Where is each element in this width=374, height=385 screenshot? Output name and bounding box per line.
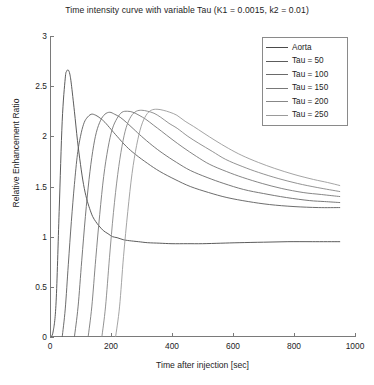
x-tick-mark <box>111 333 112 337</box>
chart-legend: AortaTau = 50Tau = 100Tau = 150Tau = 200… <box>262 37 348 126</box>
y-tick-mark <box>50 36 54 37</box>
y-axis-ticks: 00.511.522.53 <box>0 36 47 337</box>
y-tick-label: 3 <box>7 31 47 41</box>
x-tick-mark <box>172 333 173 337</box>
legend-line-icon <box>266 61 288 62</box>
legend-label: Tau = 250 <box>292 111 328 119</box>
y-tick-mark <box>50 237 54 238</box>
legend-line-icon <box>266 74 288 75</box>
y-axis-title: Relative Enhancement Ratio <box>11 53 21 253</box>
legend-label: Tau = 200 <box>292 98 328 106</box>
legend-label: Tau = 150 <box>292 84 328 92</box>
x-tick-label: 200 <box>104 341 118 351</box>
chart-figure: Time intensity curve with variable Tau (… <box>0 0 374 385</box>
legend-line-icon <box>266 115 288 116</box>
x-tick-label: 400 <box>165 341 179 351</box>
x-axis-ticks: 02004006008001000 <box>50 337 355 359</box>
legend-item[interactable]: Tau = 150 <box>266 82 343 96</box>
legend-line-icon <box>266 47 288 48</box>
x-tick-label: 600 <box>226 341 240 351</box>
x-tick-label: 800 <box>287 341 301 351</box>
curve-tau-150 <box>88 111 340 337</box>
legend-item[interactable]: Tau = 200 <box>266 95 343 109</box>
y-tick-label: 0 <box>7 332 47 342</box>
y-tick-mark <box>50 86 54 87</box>
legend-label: Tau = 50 <box>292 57 324 65</box>
x-tick-mark <box>355 333 356 337</box>
legend-label: Aorta <box>292 44 312 52</box>
y-tick-mark <box>50 337 54 338</box>
chart-title: Time intensity curve with variable Tau (… <box>0 5 374 15</box>
y-tick-mark <box>50 187 54 188</box>
legend-item[interactable]: Tau = 250 <box>266 109 343 123</box>
x-axis-title: Time after injection [sec] <box>50 360 355 370</box>
legend-label: Tau = 100 <box>292 71 328 79</box>
x-tick-mark <box>233 333 234 337</box>
legend-item[interactable]: Aorta <box>266 41 343 55</box>
curve-tau-50 <box>62 114 340 337</box>
curve-tau-100 <box>74 112 339 337</box>
legend-line-icon <box>266 101 288 102</box>
legend-item[interactable]: Tau = 100 <box>266 68 343 82</box>
legend-item[interactable]: Tau = 50 <box>266 55 343 69</box>
y-tick-mark <box>50 287 54 288</box>
y-tick-label: 0.5 <box>7 282 47 292</box>
x-tick-label: 1000 <box>346 341 365 351</box>
y-tick-mark <box>50 136 54 137</box>
legend-line-icon <box>266 88 288 89</box>
x-tick-mark <box>294 333 295 337</box>
x-tick-label: 0 <box>48 341 53 351</box>
